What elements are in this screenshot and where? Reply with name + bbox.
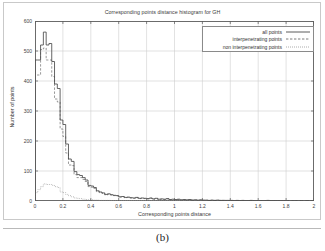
legend-item-label: all points [262,29,282,35]
figure-caption: (b) [0,231,325,243]
x-axis-label: Corresponding points distance [35,211,314,217]
y-tick-label: 200 [24,138,32,144]
legend-line-sample [285,29,311,35]
x-tick-label: 1.6 [248,203,268,209]
y-tick-label: 100 [24,168,32,174]
legend-item-label: non interpenetrating points [223,44,282,50]
legend-line-sample [285,44,311,50]
legend-line-sample [285,36,311,42]
legend-item[interactable]: interpenetrating points [205,36,311,44]
caption-divider [3,228,321,229]
y-tick-label: 500 [24,48,32,54]
chart-legend[interactable]: all pointsinterpenetrating pointsnon int… [202,26,314,52]
x-tick-label: 1 [165,203,185,209]
chart-title: Corresponding points distance histogram … [0,9,325,15]
x-tick-label: 0.6 [109,203,129,209]
x-tick-label: 0.4 [81,203,101,209]
x-tick-label: 0 [25,203,45,209]
x-tick-label: 0.8 [137,203,157,209]
x-tick-label: 2 [304,203,324,209]
x-tick-label: 1.4 [220,203,240,209]
figure-container: Corresponding points distance histogram … [0,0,325,251]
y-axis-tick-labels: 0100200300400500600 [12,21,32,201]
x-tick-label: 1.2 [192,203,212,209]
legend-item-label: interpenetrating points [233,36,282,42]
legend-item[interactable]: non interpenetrating points [205,43,311,51]
x-tick-label: 1.8 [276,203,296,209]
legend-item[interactable]: all points [205,28,311,36]
x-tick-label: 0.2 [53,203,73,209]
y-tick-label: 400 [24,78,32,84]
y-tick-label: 300 [24,108,32,114]
y-tick-label: 600 [24,18,32,24]
